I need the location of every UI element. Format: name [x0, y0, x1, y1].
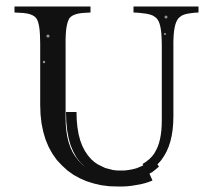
- scan-speck-3: [165, 16, 168, 19]
- letter-u-glyph: [0, 0, 208, 196]
- scan-speck-4: [164, 33, 166, 35]
- background-plate: [0, 0, 208, 196]
- scan-speck-1: [46, 34, 49, 37]
- scan-speck-2: [43, 61, 45, 63]
- letterform-canvas: U: [0, 0, 208, 196]
